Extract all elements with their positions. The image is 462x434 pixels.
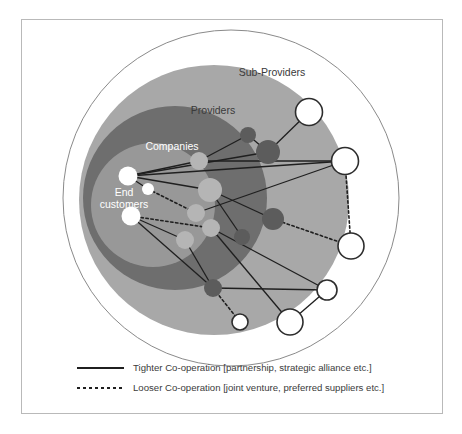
node-ec2[interactable]	[142, 183, 154, 195]
figure-root: Sub-ProvidersProvidersCompaniesEndcustom…	[0, 0, 462, 434]
node-sp6[interactable]	[232, 314, 248, 330]
node-sp2[interactable]	[332, 148, 359, 175]
node-co3[interactable]	[187, 204, 205, 222]
network-diagram: Sub-ProvidersProvidersCompaniesEndcustom…	[0, 0, 462, 434]
node-co4[interactable]	[202, 219, 220, 237]
node-co2[interactable]	[198, 178, 222, 202]
node-pr3[interactable]	[262, 208, 284, 230]
node-sp5[interactable]	[277, 309, 303, 335]
ring-label-providers: Providers	[191, 104, 235, 116]
node-sp1[interactable]	[296, 99, 323, 126]
node-pr2[interactable]	[256, 140, 280, 164]
legend-label-tighter: Tighter Co-operation [partnership, strat…	[133, 362, 372, 373]
node-pr4[interactable]	[234, 229, 250, 245]
ring-label-companies: Companies	[145, 140, 198, 152]
node-co1[interactable]	[190, 152, 208, 170]
node-co5[interactable]	[176, 231, 194, 249]
node-pr5[interactable]	[204, 279, 222, 297]
legend: Tighter Co-operation [partnership, strat…	[77, 362, 384, 393]
ring-label-sub-providers: Sub-Providers	[239, 66, 306, 78]
node-pr1[interactable]	[240, 127, 256, 143]
node-sp3[interactable]	[338, 233, 364, 259]
node-ec1[interactable]	[119, 167, 138, 186]
legend-label-looser: Looser Co-operation [joint venture, pref…	[133, 382, 384, 393]
node-sp4[interactable]	[317, 280, 337, 300]
